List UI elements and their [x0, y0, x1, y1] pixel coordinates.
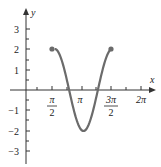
y-tick-3: 3 — [14, 24, 19, 35]
y-tick-neg2: −2 — [8, 126, 19, 137]
right-endpoint-dot — [108, 46, 113, 51]
x-tick-3pi-over-2-numerator: 3π — [105, 94, 117, 105]
y-axis-arrow-icon — [23, 8, 29, 15]
y-tick-2: 2 — [14, 44, 19, 55]
x-tick-pi: π — [77, 94, 83, 105]
y-tick-1: 1 — [14, 65, 19, 76]
x-ticks — [37, 86, 141, 90]
x-axis-label: x — [149, 74, 155, 85]
left-endpoint-dot — [49, 46, 54, 51]
x-tick-pi-over-2-denominator: 2 — [50, 107, 55, 118]
x-tick-2pi: 2π — [136, 94, 147, 105]
x-tick-3pi-over-2-denominator: 2 — [109, 107, 114, 118]
x-axis-arrow-icon — [149, 87, 156, 93]
x-tick-pi-over-2-numerator: π — [49, 94, 55, 105]
y-tick-neg1: −1 — [8, 105, 19, 116]
y-axis-label: y — [30, 7, 36, 18]
function-graph: 3 2 1 −1 −2 −3 π 2 π 3π 2 2π y x — [0, 0, 161, 167]
y-tick-neg3: −3 — [8, 146, 19, 157]
